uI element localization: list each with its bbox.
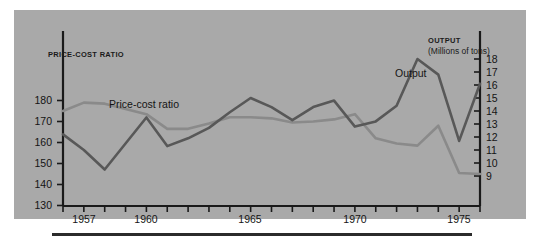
right-tick-label-12: 12 [486, 131, 506, 143]
x-tick-label-1975: 1975 [439, 213, 479, 225]
right-axis-units: (Millions of tons) [428, 46, 490, 56]
figure-container: PRICE-COST RATIO OUTPUT (Millions of ton… [0, 0, 540, 244]
x-axis-ticks [63, 206, 480, 212]
series-label-output: Output [395, 67, 427, 79]
right-tick-label-18: 18 [486, 53, 506, 65]
left-axis-title: PRICE-COST RATIO [48, 50, 124, 59]
x-tick-label-1965: 1965 [230, 213, 270, 225]
chart-panel: PRICE-COST RATIO OUTPUT (Millions of ton… [14, 10, 526, 219]
left-tick-label-170: 170 [26, 115, 52, 127]
right-tick-label-13: 13 [486, 118, 506, 130]
x-tick-label-1957: 1957 [64, 213, 104, 225]
right-tick-label-15: 15 [486, 92, 506, 104]
right-tick-label-10: 10 [486, 157, 506, 169]
right-tick-label-14: 14 [486, 105, 506, 117]
x-tick-label-1960: 1960 [126, 213, 166, 225]
right-tick-label-16: 16 [486, 79, 506, 91]
x-tick-label-1970: 1970 [335, 213, 375, 225]
right-tick-label-9: 9 [486, 170, 506, 182]
right-tick-label-11: 11 [486, 144, 506, 156]
left-tick-label-150: 150 [26, 157, 52, 169]
left-tick-label-180: 180 [26, 94, 52, 106]
right-tick-label-17: 17 [486, 66, 506, 78]
series-line-price-cost-ratio [63, 103, 480, 174]
left-tick-label-140: 140 [26, 178, 52, 190]
series-label-price-cost-ratio: Price-cost ratio [109, 98, 179, 110]
right-axis-title: OUTPUT [428, 36, 461, 45]
left-tick-label-130: 130 [26, 199, 52, 211]
left-tick-label-160: 160 [26, 136, 52, 148]
caption-divider-rule [52, 233, 472, 236]
